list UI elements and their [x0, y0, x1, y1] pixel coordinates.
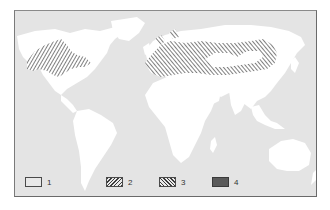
land-australia: [269, 139, 311, 171]
legend-item-2: 2: [106, 177, 132, 187]
legend-item-1: 1: [25, 177, 51, 187]
legend-label: 4: [234, 178, 238, 187]
legend-swatch-empty: [25, 177, 42, 187]
world-map: [15, 11, 317, 197]
legend-swatch-solid: [212, 177, 229, 187]
legend-label: 2: [128, 178, 132, 187]
legend-item-4: 4: [212, 177, 238, 187]
land-india: [229, 89, 247, 115]
land-central-america: [61, 95, 77, 113]
legend-swatch-back-hatch: [159, 177, 176, 187]
legend-swatch-forward-hatch: [106, 177, 123, 187]
land-madagascar: [210, 137, 217, 153]
map-frame: 1 2 3 4: [14, 10, 317, 197]
land-southeast-asia: [251, 105, 285, 129]
legend-item-3: 3: [159, 177, 185, 187]
legend-label: 3: [181, 178, 185, 187]
legend-label: 1: [47, 178, 51, 187]
land-new-zealand: [311, 169, 317, 185]
